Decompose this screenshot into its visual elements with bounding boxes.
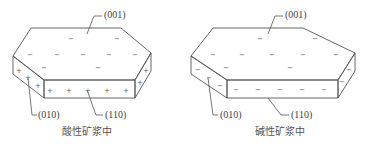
svg-text:−: −	[106, 51, 112, 59]
svg-text:−: −	[321, 86, 327, 94]
diagram-acidic-pulp: − − − − − − − − − + + + + + + + + + +	[0, 0, 183, 150]
svg-text:+: +	[66, 87, 72, 95]
svg-text:−: −	[233, 86, 239, 94]
svg-text:−: −	[95, 64, 101, 72]
svg-text:−: −	[346, 66, 352, 74]
svg-text:+: +	[123, 87, 129, 95]
svg-text:+: +	[104, 87, 110, 95]
svg-text:−: −	[239, 51, 245, 59]
svg-text:−: −	[223, 64, 229, 72]
svg-text:−: −	[41, 64, 47, 72]
svg-text:−: −	[312, 35, 318, 43]
svg-text:−: −	[54, 51, 60, 59]
svg-text:−: −	[299, 86, 305, 94]
svg-text:−: −	[287, 64, 293, 72]
svg-text:−: −	[300, 51, 306, 59]
label-110: (110)	[105, 110, 126, 120]
svg-text:−: −	[217, 82, 223, 90]
svg-text:−: −	[114, 35, 120, 43]
caption-acidic: 酸性矿浆中	[62, 126, 112, 138]
right-face	[338, 53, 355, 98]
svg-text:+: +	[35, 82, 41, 90]
svg-text:−: −	[277, 86, 283, 94]
svg-text:−: −	[210, 51, 216, 59]
top-face-charges: − − − − − − − − −	[210, 35, 339, 72]
caption-alkaline: 碱性矿浆中	[255, 126, 305, 138]
svg-text:−: −	[206, 74, 212, 82]
svg-text:−: −	[195, 66, 201, 74]
leader-110	[268, 98, 289, 115]
label-110: (110)	[291, 110, 312, 120]
right-face	[135, 53, 151, 98]
svg-text:−: −	[257, 35, 263, 43]
svg-text:−: −	[339, 78, 345, 86]
diagram-alkaline-pulp: − − − − − − − − − − − − − − − − − − −	[183, 0, 366, 150]
svg-text:−: −	[68, 35, 74, 43]
svg-text:−: −	[255, 86, 261, 94]
svg-text:−: −	[333, 51, 339, 59]
svg-text:−: −	[80, 51, 86, 59]
label-010: (010)	[38, 110, 60, 120]
svg-text:+: +	[16, 67, 22, 75]
svg-text:+: +	[137, 79, 143, 87]
svg-text:−: −	[27, 51, 33, 59]
front-face-charges: − − − − −	[233, 86, 327, 94]
label-010: (010)	[220, 110, 242, 120]
label-001: (001)	[104, 10, 126, 20]
svg-text:−: −	[132, 51, 138, 59]
leader-001	[268, 16, 283, 34]
svg-text:+: +	[143, 67, 149, 75]
leader-001	[87, 16, 102, 34]
label-001: (001)	[285, 10, 307, 20]
svg-text:−: −	[269, 51, 275, 59]
svg-text:+: +	[47, 87, 53, 95]
top-face-charges: − − − − − − − − −	[27, 35, 138, 72]
